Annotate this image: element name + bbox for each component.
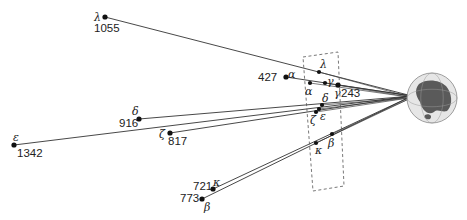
star-zeta-distance: 817 xyxy=(168,135,187,147)
star-gamma-distance: 243 xyxy=(341,87,360,99)
sight-lines xyxy=(14,17,412,199)
star-lambda-distance: 1055 xyxy=(94,22,120,34)
sight-line-lambda xyxy=(105,17,412,96)
star-delta-projection-name: δ xyxy=(322,92,329,105)
star-lambda-projection-name: λ xyxy=(319,58,327,71)
star-beta-projection-dot xyxy=(330,132,334,136)
star-kappa-distance: 721 xyxy=(193,180,212,192)
star-beta-distance: 773 xyxy=(180,192,199,204)
star-epsilon-projection-name: ε xyxy=(320,110,326,123)
star-zeta-projection-name: ζ xyxy=(310,114,317,127)
star-labels: λ1055λα427αγ243γδ916δε1342εζ817ζκ721κβ77… xyxy=(13,11,360,214)
star-zeta-name: ζ xyxy=(159,128,166,141)
star-beta-name: β xyxy=(203,201,210,214)
star-distance-diagram: λ1055λα427αγ243γδ916δε1342εζ817ζκ721κβ77… xyxy=(0,0,467,220)
star-kappa-name: κ xyxy=(212,176,221,189)
star-lambda-dot xyxy=(102,14,107,19)
sight-line-epsilon xyxy=(14,96,412,145)
star-beta-projection-name: β xyxy=(327,137,334,150)
star-gamma-projection-name: γ xyxy=(327,75,334,88)
star-alpha-projection-name: α xyxy=(305,85,313,98)
star-alpha-name: α xyxy=(288,68,296,81)
star-gamma-name: γ xyxy=(334,87,341,100)
stars xyxy=(11,14,340,201)
earth-globe-icon xyxy=(407,73,457,123)
star-delta-distance: 916 xyxy=(119,117,138,129)
star-alpha-distance: 427 xyxy=(258,71,277,83)
star-epsilon-distance: 1342 xyxy=(17,147,43,159)
star-kappa-projection-name: κ xyxy=(314,144,323,157)
star-epsilon-name: ε xyxy=(13,131,19,144)
